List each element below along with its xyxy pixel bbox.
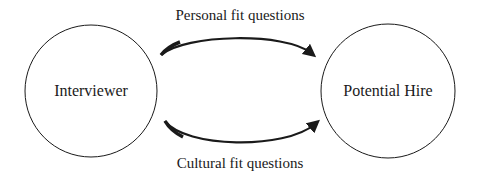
personal-fit-label: Personal fit questions <box>175 7 304 23</box>
node-interviewer: Interviewer <box>25 25 157 157</box>
personal-fit-arrow <box>161 38 311 55</box>
edge-personal-fit: Personal fit questions <box>161 7 311 55</box>
potential-hire-label: Potential Hire <box>343 82 432 99</box>
interviewer-label: Interviewer <box>54 82 128 99</box>
edge-cultural-fit: Cultural fit questions <box>165 121 315 171</box>
node-potential-hire: Potential Hire <box>321 24 455 158</box>
cultural-fit-label: Cultural fit questions <box>177 155 304 171</box>
cultural-fit-arrow <box>165 121 315 142</box>
diagram-canvas: Interviewer Potential Hire Personal fit … <box>0 0 479 179</box>
personal-fit-arrow-tail <box>161 42 180 55</box>
